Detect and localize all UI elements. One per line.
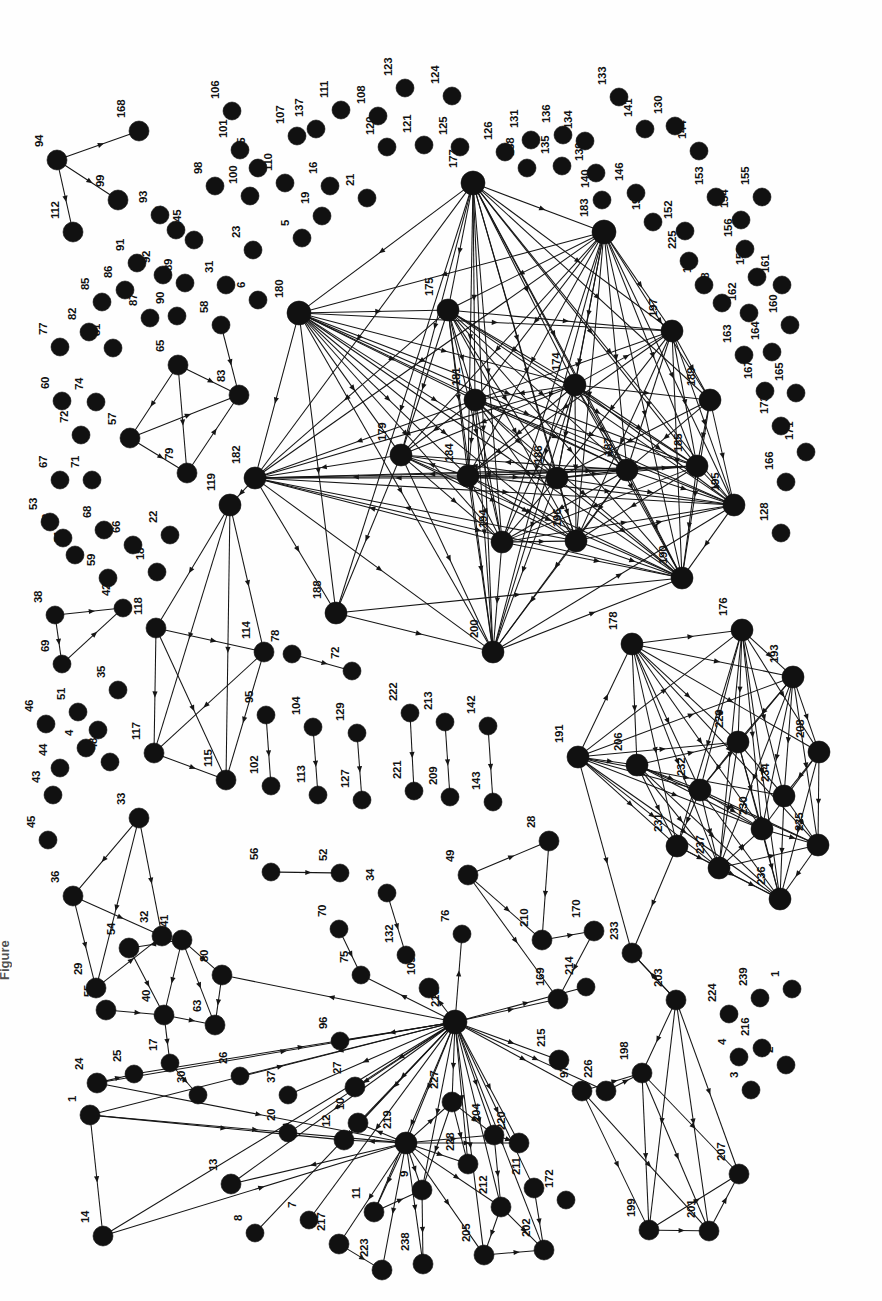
graph-node[interactable] xyxy=(104,339,122,357)
graph-node[interactable] xyxy=(524,1178,544,1198)
graph-node[interactable] xyxy=(671,567,693,589)
graph-node[interactable] xyxy=(154,1005,174,1025)
graph-node[interactable] xyxy=(47,150,67,170)
graph-node[interactable] xyxy=(723,494,745,516)
graph-node[interactable] xyxy=(51,338,69,356)
graph-node[interactable] xyxy=(176,274,194,292)
graph-node[interactable] xyxy=(205,1015,225,1035)
graph-node[interactable] xyxy=(364,1202,384,1222)
graph-node[interactable] xyxy=(557,1191,575,1209)
graph-node[interactable] xyxy=(119,938,139,958)
graph-node[interactable] xyxy=(51,471,69,489)
graph-node[interactable] xyxy=(177,463,197,483)
graph-node[interactable] xyxy=(797,443,815,461)
graph-node[interactable] xyxy=(244,241,262,259)
graph-node[interactable] xyxy=(288,127,306,145)
graph-node[interactable] xyxy=(622,943,642,963)
graph-node[interactable] xyxy=(108,190,128,210)
graph-node[interactable] xyxy=(129,808,149,828)
graph-node[interactable] xyxy=(172,930,192,950)
graph-node[interactable] xyxy=(343,662,361,680)
graph-node[interactable] xyxy=(548,989,568,1009)
graph-node[interactable] xyxy=(632,1063,652,1083)
graph-node[interactable] xyxy=(257,706,275,724)
graph-node[interactable] xyxy=(168,307,186,325)
graph-node[interactable] xyxy=(443,87,461,105)
graph-node[interactable] xyxy=(217,276,235,294)
graph-node[interactable] xyxy=(307,120,325,138)
graph-node[interactable] xyxy=(474,1245,494,1265)
graph-node[interactable] xyxy=(783,980,801,998)
graph-node[interactable] xyxy=(412,1180,432,1200)
graph-node[interactable] xyxy=(808,741,830,763)
graph-node[interactable] xyxy=(352,966,370,984)
graph-node[interactable] xyxy=(212,965,232,985)
graph-node[interactable] xyxy=(96,1000,116,1020)
graph-node[interactable] xyxy=(93,1226,113,1246)
graph-node[interactable] xyxy=(212,316,230,334)
graph-node[interactable] xyxy=(283,645,301,663)
graph-node[interactable] xyxy=(109,681,127,699)
graph-node[interactable] xyxy=(51,759,69,777)
graph-node[interactable] xyxy=(539,831,559,851)
graph-node[interactable] xyxy=(584,921,604,941)
graph-node[interactable] xyxy=(325,602,347,624)
graph-node[interactable] xyxy=(676,222,694,240)
graph-node[interactable] xyxy=(332,101,350,119)
graph-node[interactable] xyxy=(358,189,376,207)
graph-node[interactable] xyxy=(293,229,311,247)
graph-node[interactable] xyxy=(729,1164,749,1184)
graph-node[interactable] xyxy=(727,731,749,753)
graph-node[interactable] xyxy=(689,779,711,801)
graph-node[interactable] xyxy=(262,777,280,795)
graph-node[interactable] xyxy=(348,1113,368,1133)
graph-node[interactable] xyxy=(782,666,804,688)
graph-node[interactable] xyxy=(699,1221,719,1241)
graph-node[interactable] xyxy=(390,444,412,466)
graph-node[interactable] xyxy=(522,131,540,149)
graph-node[interactable] xyxy=(742,1081,760,1099)
graph-node[interactable] xyxy=(482,641,504,663)
graph-node[interactable] xyxy=(276,174,294,192)
graph-node[interactable] xyxy=(509,1133,529,1153)
graph-node[interactable] xyxy=(781,316,799,334)
graph-node[interactable] xyxy=(244,467,266,489)
graph-node[interactable] xyxy=(219,494,241,516)
graph-node[interactable] xyxy=(189,1086,207,1104)
graph-node[interactable] xyxy=(216,770,236,790)
graph-node[interactable] xyxy=(53,655,71,673)
graph-node[interactable] xyxy=(443,1010,467,1034)
graph-node[interactable] xyxy=(769,888,791,910)
graph-node[interactable] xyxy=(206,177,224,195)
graph-node[interactable] xyxy=(313,207,331,225)
graph-node[interactable] xyxy=(458,865,478,885)
graph-node[interactable] xyxy=(626,754,648,776)
graph-node[interactable] xyxy=(345,1077,365,1097)
graph-node[interactable] xyxy=(229,385,249,405)
graph-node[interactable] xyxy=(93,293,111,311)
graph-node[interactable] xyxy=(453,925,471,943)
graph-node[interactable] xyxy=(565,530,587,552)
graph-node[interactable] xyxy=(415,136,433,154)
graph-node[interactable] xyxy=(731,619,753,641)
graph-node[interactable] xyxy=(458,1154,478,1174)
graph-node[interactable] xyxy=(241,187,259,205)
graph-node[interactable] xyxy=(396,79,414,97)
graph-node[interactable] xyxy=(730,1048,748,1066)
graph-node[interactable] xyxy=(348,724,366,742)
graph-node[interactable] xyxy=(644,213,662,231)
graph-node[interactable] xyxy=(753,188,771,206)
graph-node[interactable] xyxy=(405,782,423,800)
graph-node[interactable] xyxy=(80,1105,100,1125)
graph-node[interactable] xyxy=(331,1032,349,1050)
graph-node[interactable] xyxy=(372,1260,392,1280)
graph-node[interactable] xyxy=(87,393,105,411)
graph-node[interactable] xyxy=(708,857,730,879)
graph-node[interactable] xyxy=(46,606,64,624)
graph-node[interactable] xyxy=(592,220,616,244)
graph-node[interactable] xyxy=(572,1081,592,1101)
graph-node[interactable] xyxy=(144,743,164,763)
graph-node[interactable] xyxy=(141,309,159,327)
graph-node[interactable] xyxy=(773,785,795,807)
graph-node[interactable] xyxy=(279,1086,297,1104)
